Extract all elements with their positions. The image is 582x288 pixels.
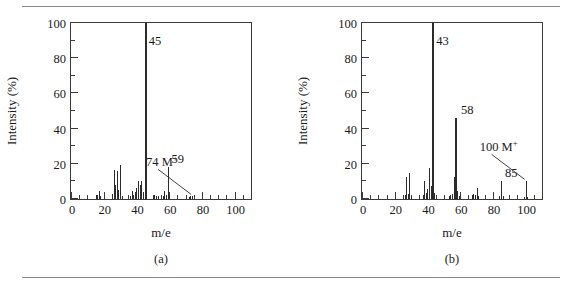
spectrum-peak (190, 196, 191, 199)
spectrum-peak (164, 191, 165, 199)
panel-label-b: (b) (445, 252, 460, 267)
x-axis-minor-tick (517, 195, 518, 199)
y-axis-tick-label: 20 (345, 159, 358, 172)
charge-superscript-icon: + (513, 138, 518, 148)
spectrum-peak (115, 185, 116, 199)
x-axis-minor-tick (509, 195, 510, 199)
spectrum-peak (411, 196, 412, 199)
x-axis-tick-label: 0 (69, 204, 75, 217)
peak-annotation-74-m-: 74 M+ (146, 154, 178, 169)
x-axis-title-b: m/e (442, 225, 462, 241)
x-axis-minor-tick (186, 195, 187, 199)
x-axis-minor-tick (468, 195, 469, 199)
y-axis-major-tick (362, 92, 369, 93)
spectrum-peak (473, 194, 474, 199)
plot-area-a: 455974 M+ (71, 23, 251, 199)
x-axis-minor-tick (243, 195, 244, 199)
peak-annotation-text: 74 M (146, 156, 173, 170)
y-axis-tick-label: 0 (351, 194, 357, 207)
y-axis-major-tick (71, 92, 78, 93)
x-axis-minor-tick (436, 195, 437, 199)
x-axis-minor-tick (485, 195, 486, 199)
y-axis-minor-tick (71, 40, 75, 41)
spectrum-peak (434, 193, 435, 199)
charge-superscript-icon: + (173, 153, 178, 163)
plot-frame-a: 455974 M+ 020406080100020406080100 (70, 22, 252, 200)
x-axis-minor-tick (218, 195, 219, 199)
x-axis-major-tick (395, 192, 396, 199)
peak-annotation-58: 58 (461, 104, 474, 117)
peak-annotation-text: 100 M (480, 141, 513, 155)
spectrum-peak (166, 195, 167, 199)
spectrum-peak (192, 196, 193, 199)
y-axis-minor-tick (71, 75, 75, 76)
y-axis-tick-label: 40 (54, 123, 67, 136)
x-axis-minor-tick (79, 195, 80, 199)
peak-annotation-45: 45 (149, 35, 162, 48)
x-axis-minor-tick (177, 195, 178, 199)
x-axis-minor-tick (378, 195, 379, 199)
x-axis-tick-label: 100 (226, 204, 245, 217)
y-axis-tick-label: 80 (54, 53, 67, 66)
y-axis-minor-tick (71, 110, 75, 111)
x-axis-minor-tick (194, 195, 195, 199)
spectrum-peak (133, 195, 134, 199)
spectrum-peak (450, 195, 451, 199)
y-axis-minor-tick (71, 145, 75, 146)
x-axis-tick-label: 20 (389, 204, 402, 217)
spectrum-peak (141, 181, 142, 199)
x-axis-major-tick (202, 192, 203, 199)
spectrum-peak (455, 118, 457, 199)
peak-annotation-43: 43 (436, 35, 449, 48)
spectrum-peak (143, 192, 144, 199)
x-axis-tick-label: 20 (98, 204, 111, 217)
x-axis-major-tick (493, 192, 494, 199)
y-axis-minor-tick (71, 180, 75, 181)
spectrum-peak (158, 196, 159, 199)
spectrum-peak (136, 188, 137, 199)
x-axis-tick-label: 80 (197, 204, 210, 217)
y-axis-major-tick (71, 57, 78, 58)
spectrum-peak (527, 197, 528, 199)
spectrum-peak (427, 189, 428, 199)
spectrum-peak (424, 181, 425, 199)
spectrum-peak (409, 173, 410, 199)
plot-frame-b: 435885100 M+ 020406080100020406080100 (361, 22, 543, 200)
y-axis-major-tick (362, 198, 369, 199)
x-axis-minor-tick (226, 195, 227, 199)
spectrum-peak (138, 181, 139, 199)
spectrum-peak (168, 167, 169, 199)
x-axis-tick-label: 60 (455, 204, 468, 217)
spectrum-peak (97, 195, 98, 199)
y-axis-minor-tick (362, 110, 366, 111)
peak-annotation-100-m-: 100 M+ (480, 139, 518, 154)
y-axis-major-tick (71, 163, 78, 164)
y-axis-title-b: Intensity (%) (295, 77, 311, 145)
y-axis-minor-tick (362, 75, 366, 76)
y-axis-tick-label: 60 (54, 88, 67, 101)
y-axis-tick-label: 20 (54, 159, 67, 172)
x-axis-minor-tick (210, 195, 211, 199)
panel-a: Intensity (%) 455974 M+ 0204060801000204… (0, 0, 291, 288)
spectrum-peak (452, 194, 453, 199)
x-axis-minor-tick (87, 195, 88, 199)
y-axis-minor-tick (362, 145, 366, 146)
y-axis-major-tick (71, 128, 78, 129)
x-axis-minor-tick (534, 195, 535, 199)
spectrum-peak (154, 195, 155, 199)
annotation-leader-line (71, 23, 251, 199)
spectrum-peak (406, 177, 407, 199)
x-axis-minor-tick (387, 195, 388, 199)
x-axis-tick-label: 100 (517, 204, 536, 217)
spectrum-peak (130, 196, 131, 199)
y-axis-tick-label: 100 (338, 18, 357, 31)
x-axis-tick-label: 40 (422, 204, 435, 217)
x-axis-tick-label: 60 (164, 204, 177, 217)
x-axis-tick-label: 40 (131, 204, 144, 217)
spectrum-peak (146, 195, 147, 199)
x-axis-major-tick (235, 192, 236, 199)
spectrum-peak (475, 195, 476, 199)
spectrum-peak (501, 181, 502, 199)
x-axis-title-a: m/e (151, 225, 171, 241)
spectrum-peak (112, 194, 113, 199)
